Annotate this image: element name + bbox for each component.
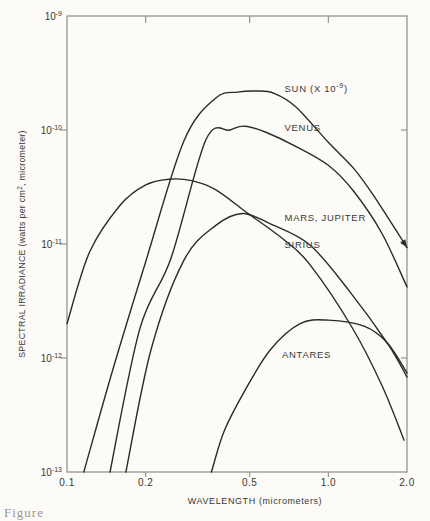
x-axis-title: WAVELENGTH (micrometers) bbox=[188, 496, 322, 506]
y-tick-label: 10-11 bbox=[41, 238, 62, 250]
curve-sun-arrowhead bbox=[400, 239, 407, 247]
curve-mars-jupiter bbox=[126, 213, 407, 472]
curve-venus bbox=[110, 126, 407, 472]
x-tick-label: 0.5 bbox=[242, 477, 257, 488]
x-tick-label: 1.0 bbox=[321, 477, 336, 488]
curve-sun bbox=[84, 91, 407, 472]
curve-label-venus: VENUS bbox=[285, 122, 321, 133]
curve-label-antares: ANTARES bbox=[282, 349, 331, 360]
caption-fragment: Figure bbox=[4, 505, 44, 521]
y-tick-label: 10-9 bbox=[45, 10, 62, 22]
y-axis-title: SPECTRAL IRRADIANCE (watts per cm2, micr… bbox=[16, 130, 27, 358]
curve-label-sirius: SIRIUS bbox=[285, 239, 321, 250]
x-tick-label: 0.1 bbox=[59, 477, 74, 488]
x-tick-label: 0.2 bbox=[138, 477, 153, 488]
curve-antares bbox=[211, 320, 407, 472]
y-tick-label: 10-12 bbox=[41, 352, 62, 364]
x-tick-label: 2.0 bbox=[399, 477, 414, 488]
curve-label-sun: SUN (X 10-9) bbox=[285, 82, 348, 94]
y-tick-label: 10-10 bbox=[41, 124, 62, 136]
curve-label-mars-jupiter: MARS, JUPITER bbox=[285, 212, 366, 223]
